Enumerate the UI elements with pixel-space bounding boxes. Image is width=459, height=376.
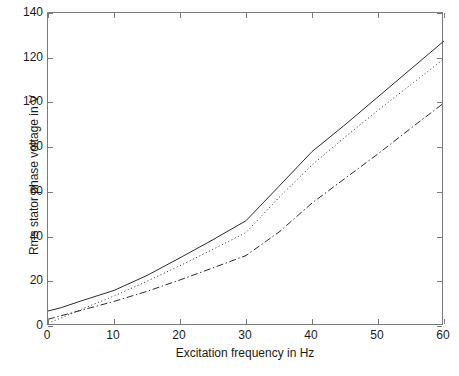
x-tick-top bbox=[378, 13, 379, 18]
x-tick-label: 10 bbox=[106, 328, 119, 342]
y-tick-right bbox=[437, 192, 442, 193]
x-tick-top bbox=[444, 13, 445, 18]
x-tick-bottom bbox=[114, 319, 115, 324]
y-tick-left bbox=[48, 147, 53, 148]
y-tick-label: 0 bbox=[0, 318, 43, 332]
y-tick-right bbox=[437, 58, 442, 59]
y-tick-right bbox=[437, 102, 442, 103]
x-tick-label: 20 bbox=[172, 328, 185, 342]
chart-figure: 0102030405060 020406080100120140 Excitat… bbox=[0, 0, 459, 376]
x-tick-top bbox=[114, 13, 115, 18]
y-tick-right bbox=[437, 326, 442, 327]
x-tick-bottom bbox=[246, 319, 247, 324]
x-tick-bottom bbox=[312, 319, 313, 324]
x-tick-bottom bbox=[378, 319, 379, 324]
x-tick-top bbox=[246, 13, 247, 18]
y-tick-right bbox=[437, 147, 442, 148]
y-tick-left bbox=[48, 58, 53, 59]
x-tick-label: 40 bbox=[304, 328, 317, 342]
x-tick-label: 50 bbox=[370, 328, 383, 342]
y-tick-right bbox=[437, 237, 442, 238]
x-tick-label: 30 bbox=[238, 328, 251, 342]
x-tick-top bbox=[180, 13, 181, 18]
curve-solid bbox=[48, 41, 444, 311]
x-tick-label: 60 bbox=[436, 328, 449, 342]
y-tick-left bbox=[48, 13, 53, 14]
x-tick-top bbox=[312, 13, 313, 18]
curve-dashdot bbox=[48, 103, 444, 319]
x-tick-label: 0 bbox=[44, 328, 51, 342]
y-tick-left bbox=[48, 237, 53, 238]
y-axis-label: Rms stator phase voltage in V bbox=[27, 55, 41, 295]
y-tick-left bbox=[48, 192, 53, 193]
y-tick-left bbox=[48, 102, 53, 103]
x-tick-bottom bbox=[180, 319, 181, 324]
curves-group bbox=[48, 41, 444, 323]
y-tick-right bbox=[437, 281, 442, 282]
y-tick-label: 140 bbox=[0, 5, 43, 19]
x-tick-bottom bbox=[444, 319, 445, 324]
plot-area bbox=[47, 12, 443, 325]
x-axis-label: Excitation frequency in Hz bbox=[47, 346, 443, 360]
y-tick-left bbox=[48, 281, 53, 282]
y-tick-left bbox=[48, 326, 53, 327]
x-tick-bottom bbox=[48, 319, 49, 324]
curves-svg bbox=[48, 13, 444, 326]
curve-dotted bbox=[48, 59, 444, 323]
y-tick-right bbox=[437, 13, 442, 14]
